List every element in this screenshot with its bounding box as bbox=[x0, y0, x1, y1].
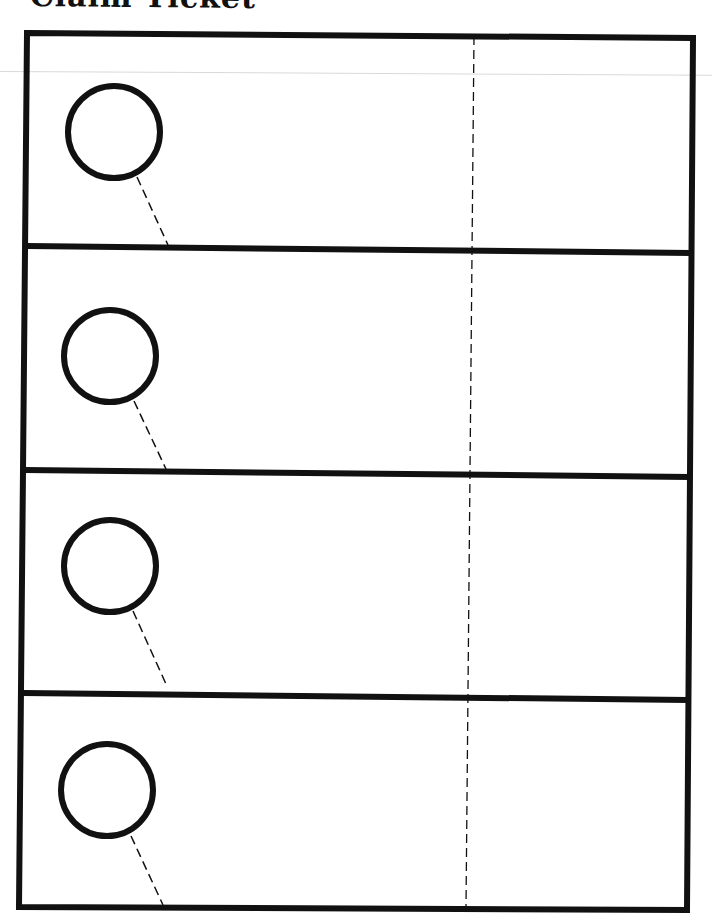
hole-circle-icon bbox=[61, 744, 153, 836]
hole-circle-icon bbox=[64, 520, 156, 612]
ticket-frame bbox=[19, 33, 693, 910]
hole-circle-icon bbox=[64, 310, 156, 402]
hole-circle-icon bbox=[68, 86, 160, 178]
divider-3 bbox=[23, 693, 688, 700]
ticket-3 bbox=[64, 520, 166, 684]
ticket-4 bbox=[61, 744, 163, 905]
hole-cut-dashed-line bbox=[133, 611, 166, 684]
hole-cut-dashed-line bbox=[137, 177, 168, 245]
hole-cut-dashed-line bbox=[134, 401, 166, 469]
divider-2 bbox=[25, 470, 690, 477]
ticket-1 bbox=[68, 86, 168, 245]
ticket-2 bbox=[64, 310, 166, 469]
hole-cut-dashed-line bbox=[131, 836, 163, 905]
divider-1 bbox=[27, 246, 691, 253]
ticket-sheet bbox=[0, 0, 712, 918]
